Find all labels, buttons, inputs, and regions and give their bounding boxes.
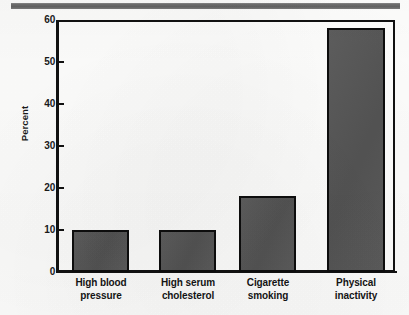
y-tick-mark-20 — [58, 187, 64, 189]
bar-cigarette-smoking — [239, 196, 296, 272]
category-label-line-1: Cigarette — [224, 277, 312, 290]
bar-chart-figure: Percent 60 50 40 30 20 10 0 High blood p… — [0, 0, 409, 315]
y-tick-label-0: 0 — [15, 267, 55, 277]
category-label-line-2: inactivity — [312, 290, 400, 303]
category-label-line-1: Physical — [312, 277, 400, 290]
bar-high-blood-pressure — [72, 230, 129, 272]
y-tick-mark-40 — [58, 103, 64, 105]
category-label-high-serum-cholesterol: High serum cholesterol — [143, 277, 233, 302]
y-tick-label-10: 10 — [15, 225, 55, 235]
y-tick-label-40: 40 — [15, 99, 55, 109]
bar-high-serum-cholesterol — [159, 230, 216, 272]
y-tick-label-30: 30 — [15, 141, 55, 151]
category-label-line-1: High blood — [57, 277, 145, 290]
category-label-physical-inactivity: Physical inactivity — [312, 277, 400, 302]
y-tick-label-60: 60 — [15, 15, 55, 25]
category-label-line-2: pressure — [57, 290, 145, 303]
category-label-line-1: High serum — [143, 277, 233, 290]
y-tick-mark-30 — [58, 145, 64, 147]
y-tick-mark-50 — [58, 61, 64, 63]
y-tick-mark-10 — [58, 229, 64, 231]
bar-physical-inactivity — [327, 28, 385, 272]
y-tick-label-50: 50 — [15, 57, 55, 67]
category-label-cigarette-smoking: Cigarette smoking — [224, 277, 312, 302]
y-tick-label-20: 20 — [15, 183, 55, 193]
top-rule-divider — [11, 3, 400, 9]
category-label-line-2: cholesterol — [143, 290, 233, 303]
category-label-high-blood-pressure: High blood pressure — [57, 277, 145, 302]
category-label-line-2: smoking — [224, 290, 312, 303]
